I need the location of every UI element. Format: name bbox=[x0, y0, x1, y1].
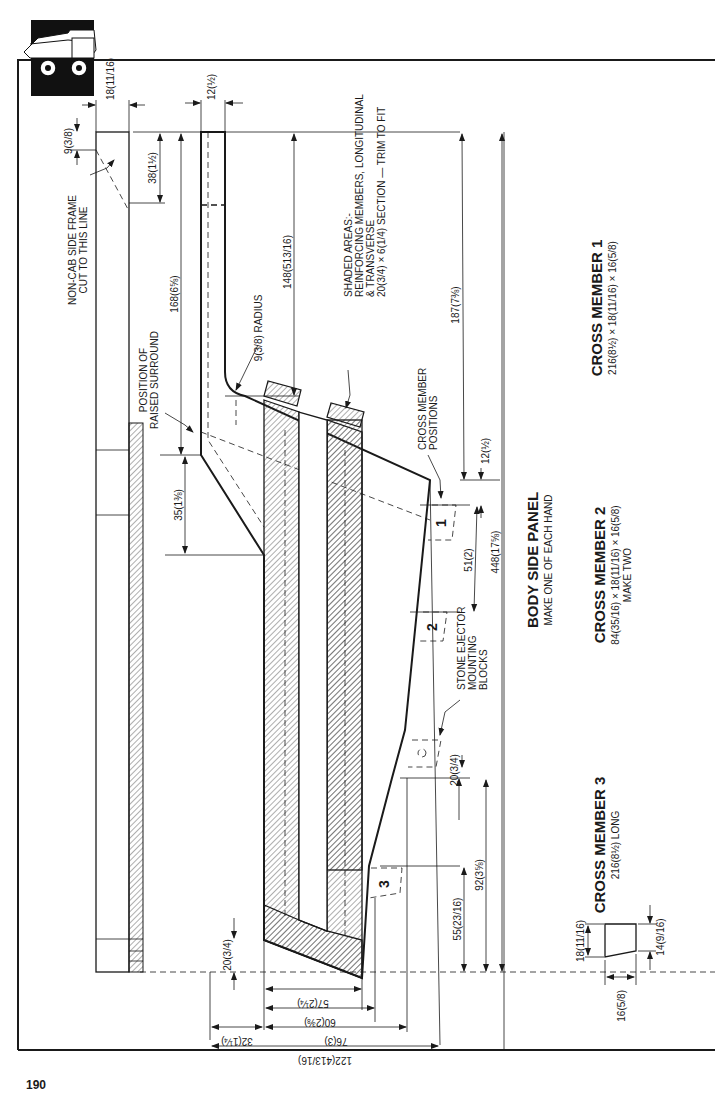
body-side-panel-drawing: 1 2 3 bbox=[0, 0, 715, 1095]
svg-text:122(413/16): 122(413/16) bbox=[298, 1055, 352, 1066]
svg-text:CUT TO THIS LINE: CUT TO THIS LINE bbox=[78, 206, 89, 293]
dump-truck-icon bbox=[24, 20, 96, 96]
svg-text:MOUNTING: MOUNTING bbox=[467, 635, 478, 690]
cross-member-marker-1: 1 bbox=[428, 505, 456, 540]
non-cab-side-frame bbox=[96, 132, 143, 972]
svg-text:84(35/16) × 18(11/16) × 16(5/8: 84(35/16) × 18(11/16) × 16(5/8) bbox=[610, 505, 621, 644]
svg-text:9(3/8): 9(3/8) bbox=[63, 128, 74, 154]
cross-member-3-section: 18(11/16) 16(5/8) 14(9/16) bbox=[575, 905, 666, 1022]
svg-text:20(3/4): 20(3/4) bbox=[449, 754, 460, 786]
svg-text:92(3⅝): 92(3⅝) bbox=[474, 859, 485, 891]
svg-text:12(½): 12(½) bbox=[206, 74, 217, 100]
cross-member-2-title: CROSS MEMBER 2 84(35/16) × 18(11/16) × 1… bbox=[591, 505, 633, 644]
svg-text:MAKE TWO: MAKE TWO bbox=[622, 548, 633, 602]
svg-text:216(8½) × 18(11/16) × 16(5/8): 216(8½) × 18(11/16) × 16(5/8) bbox=[607, 241, 618, 375]
svg-text:CROSS MEMBER 2: CROSS MEMBER 2 bbox=[591, 507, 608, 644]
svg-text:2: 2 bbox=[424, 623, 440, 631]
svg-text:51(2): 51(2) bbox=[463, 548, 474, 571]
reinforcing-members bbox=[264, 381, 364, 978]
svg-text:STONE EJECTOR: STONE EJECTOR bbox=[456, 606, 467, 690]
stone-ejector-block bbox=[408, 740, 441, 767]
svg-text:168(6⅝): 168(6⅝) bbox=[169, 275, 180, 312]
svg-text:3: 3 bbox=[376, 880, 392, 888]
svg-text:POSITIONS: POSITIONS bbox=[428, 395, 439, 450]
svg-text:14(9/16): 14(9/16) bbox=[655, 918, 666, 955]
svg-text:CROSS MEMBER 1: CROSS MEMBER 1 bbox=[588, 240, 605, 377]
svg-text:187(7⅜): 187(7⅜) bbox=[450, 286, 461, 323]
svg-text:NON-CAB SIDE FRAME: NON-CAB SIDE FRAME bbox=[67, 195, 78, 305]
svg-text:18(11/16): 18(11/16) bbox=[105, 58, 116, 100]
cross-member-3-title: CROSS MEMBER 3 216(8½) LONG bbox=[591, 777, 621, 914]
svg-text:1: 1 bbox=[433, 519, 449, 527]
svg-text:76(3): 76(3) bbox=[324, 1036, 347, 1047]
svg-text:POSITION OF: POSITION OF bbox=[138, 348, 149, 412]
svg-text:216(8½) LONG: 216(8½) LONG bbox=[610, 811, 621, 880]
svg-text:57(2¼): 57(2¼) bbox=[297, 998, 329, 1009]
svg-text:35(1⅜): 35(1⅜) bbox=[173, 489, 184, 521]
svg-text:REINFORCING MEMBERS, LONGITUDI: REINFORCING MEMBERS, LONGITUDINAL bbox=[354, 94, 365, 297]
svg-text:BLOCKS: BLOCKS bbox=[478, 649, 489, 690]
svg-text:60(2⅜): 60(2⅜) bbox=[304, 1017, 336, 1028]
cross-member-marker-3: 3 bbox=[369, 868, 402, 898]
svg-text:448(17⅝): 448(17⅝) bbox=[490, 531, 501, 574]
svg-text:CROSS MEMBER 3: CROSS MEMBER 3 bbox=[591, 777, 608, 914]
svg-text:CROSS MEMBER: CROSS MEMBER bbox=[417, 368, 428, 450]
svg-text:12(½): 12(½) bbox=[480, 438, 491, 464]
svg-text:148(513/16): 148(513/16) bbox=[282, 235, 293, 289]
body-side-panel-title: BODY SIDE PANEL MAKE ONE OF EACH HAND bbox=[524, 492, 554, 628]
svg-text:16(5/8): 16(5/8) bbox=[616, 990, 627, 1022]
svg-text:18(11/16): 18(11/16) bbox=[575, 920, 586, 962]
svg-text:BODY SIDE PANEL: BODY SIDE PANEL bbox=[524, 492, 541, 628]
svg-text:55(23/16): 55(23/16) bbox=[452, 898, 463, 941]
svg-text:32(1¼): 32(1¼) bbox=[221, 1036, 253, 1047]
svg-text:SHADED AREAS:-: SHADED AREAS:- bbox=[343, 213, 354, 297]
svg-text:& TRANSVERSE: & TRANSVERSE bbox=[365, 220, 376, 297]
svg-text:38(1½): 38(1½) bbox=[147, 152, 158, 184]
svg-text:RAISED SURROUND: RAISED SURROUND bbox=[149, 331, 160, 429]
page-number: 190 bbox=[26, 1078, 46, 1092]
svg-text:20(3/4) × 6(1/4) SECTION — TRI: 20(3/4) × 6(1/4) SECTION — TRIM TO FIT bbox=[376, 107, 387, 297]
svg-text:9(3/8) RADIUS: 9(3/8) RADIUS bbox=[253, 294, 264, 361]
svg-text:20(3/4): 20(3/4) bbox=[222, 939, 233, 971]
cross-member-1-title: CROSS MEMBER 1 216(8½) × 18(11/16) × 16(… bbox=[588, 240, 618, 377]
svg-text:MAKE ONE OF EACH HAND: MAKE ONE OF EACH HAND bbox=[543, 494, 554, 625]
